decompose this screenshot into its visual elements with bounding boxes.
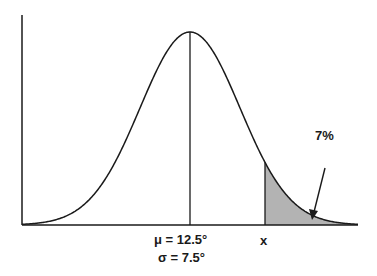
arrow-shaft: [314, 168, 325, 212]
sigma-label: σ = 7.5°: [158, 250, 205, 265]
percent-label: 7%: [315, 128, 334, 143]
mean-label: μ = 12.5°: [154, 232, 207, 247]
x-label: x: [260, 233, 267, 248]
